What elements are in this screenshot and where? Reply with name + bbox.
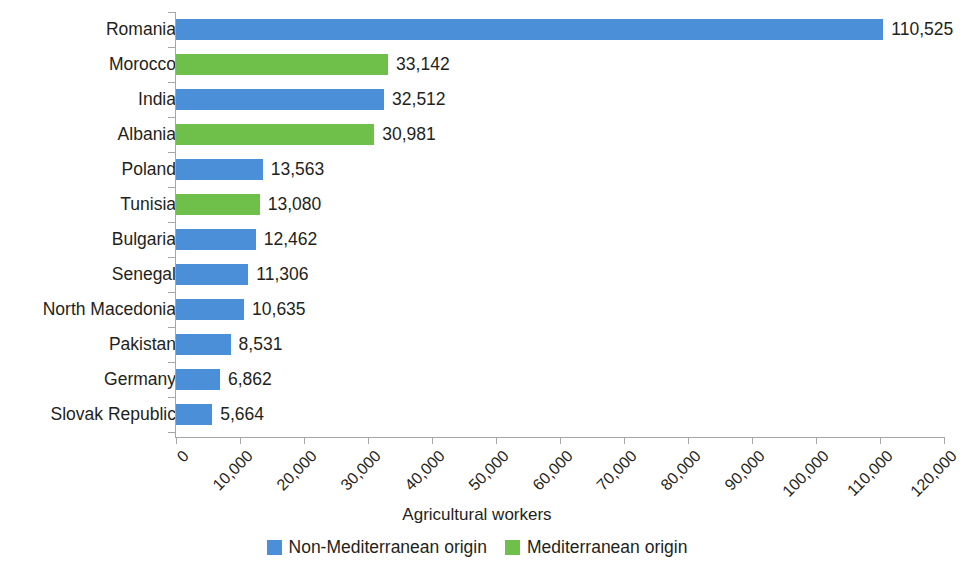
category-label-india: India	[4, 82, 176, 117]
x-axis-tick	[432, 437, 433, 444]
legend-swatch-icon	[505, 540, 520, 555]
category-label-poland: Poland	[4, 152, 176, 187]
category-row: Poland	[0, 152, 176, 187]
category-label-morocco: Morocco	[4, 47, 176, 82]
bar-row: 11,306	[176, 257, 944, 292]
x-axis-tick	[688, 437, 689, 444]
y-axis-tick	[168, 152, 175, 153]
bar-value-label: 33,142	[396, 49, 450, 80]
bar-row: 10,635	[176, 292, 944, 327]
category-row: Tunisia	[0, 187, 176, 222]
category-row: India	[0, 82, 176, 117]
category-row: Slovak Republic	[0, 397, 176, 432]
y-axis-tick	[168, 362, 175, 363]
legend-item-mediterranean[interactable]: Mediterranean origin	[505, 537, 688, 558]
bar-value-label: 30,981	[382, 119, 436, 150]
x-axis-tick	[240, 437, 241, 444]
bar-value-label: 110,525	[891, 14, 953, 45]
category-axis: RomaniaMoroccoIndiaAlbaniaPolandTunisiaB…	[0, 12, 176, 437]
category-label-germany: Germany	[4, 362, 176, 397]
bar-bulgaria[interactable]	[176, 229, 256, 250]
y-axis-tick	[168, 397, 175, 398]
bar-value-label: 5,664	[220, 399, 264, 430]
category-label-pakistan: Pakistan	[4, 327, 176, 362]
legend-swatch-icon	[267, 540, 282, 555]
category-row: Bulgaria	[0, 222, 176, 257]
bar-north-macedonia[interactable]	[176, 299, 244, 320]
bar-romania[interactable]	[176, 19, 883, 40]
category-row: Pakistan	[0, 327, 176, 362]
bar-row: 32,512	[176, 82, 944, 117]
bar-value-label: 6,862	[228, 364, 272, 395]
bar-row: 13,563	[176, 152, 944, 187]
x-axis-tick	[368, 437, 369, 444]
category-label-senegal: Senegal	[4, 257, 176, 292]
chart-legend: Non-Mediterranean originMediterranean or…	[0, 537, 954, 558]
x-axis-title: Agricultural workers	[0, 505, 954, 525]
x-axis-tick	[816, 437, 817, 444]
category-row: Romania	[0, 12, 176, 47]
legend-label: Mediterranean origin	[527, 537, 688, 558]
bar-senegal[interactable]	[176, 264, 248, 285]
y-axis-tick	[168, 327, 175, 328]
bar-row: 8,531	[176, 327, 944, 362]
bar-germany[interactable]	[176, 369, 220, 390]
category-label-bulgaria: Bulgaria	[4, 222, 176, 257]
plot-area: 110,52533,14232,51230,98113,56313,08012,…	[176, 12, 944, 437]
category-label-romania: Romania	[4, 12, 176, 47]
y-axis-tick	[168, 82, 175, 83]
y-axis-tick	[168, 432, 175, 433]
bar-value-label: 13,563	[271, 154, 325, 185]
x-axis-tick	[944, 437, 945, 444]
bar-albania[interactable]	[176, 124, 374, 145]
category-label-tunisia: Tunisia	[4, 187, 176, 222]
x-axis-tick	[176, 437, 177, 444]
y-axis-tick	[168, 47, 175, 48]
bar-tunisia[interactable]	[176, 194, 260, 215]
category-row: Germany	[0, 362, 176, 397]
bar-value-label: 8,531	[239, 329, 283, 360]
y-axis-tick	[168, 292, 175, 293]
bar-india[interactable]	[176, 89, 384, 110]
bar-poland[interactable]	[176, 159, 263, 180]
x-axis-tick	[560, 437, 561, 444]
category-label-albania: Albania	[4, 117, 176, 152]
bar-row: 30,981	[176, 117, 944, 152]
bar-value-label: 13,080	[268, 189, 322, 220]
bar-slovak-republic[interactable]	[176, 404, 212, 425]
bar-row: 6,862	[176, 362, 944, 397]
bar-row: 13,080	[176, 187, 944, 222]
category-label-north-macedonia: North Macedonia	[4, 292, 176, 327]
bar-row: 110,525	[176, 12, 944, 47]
category-row: North Macedonia	[0, 292, 176, 327]
bar-value-label: 12,462	[264, 224, 318, 255]
y-axis-tick	[168, 222, 175, 223]
bar-value-label: 11,306	[256, 259, 308, 290]
category-row: Senegal	[0, 257, 176, 292]
legend-label: Non-Mediterranean origin	[289, 537, 487, 558]
bar-row: 12,462	[176, 222, 944, 257]
y-axis-tick	[168, 117, 175, 118]
x-axis-tick	[624, 437, 625, 444]
y-axis-tick	[168, 12, 175, 13]
bar-row: 5,664	[176, 397, 944, 432]
y-axis-tick	[168, 257, 175, 258]
y-axis-tick	[168, 187, 175, 188]
category-label-slovak-republic: Slovak Republic	[4, 397, 176, 432]
bar-value-label: 32,512	[392, 84, 446, 115]
legend-item-non-mediterranean[interactable]: Non-Mediterranean origin	[267, 537, 487, 558]
bar-row: 33,142	[176, 47, 944, 82]
category-row: Albania	[0, 117, 176, 152]
category-row: Morocco	[0, 47, 176, 82]
bar-morocco[interactable]	[176, 54, 388, 75]
bar-value-label: 10,635	[252, 294, 306, 325]
x-axis-tick	[496, 437, 497, 444]
x-axis-tick	[304, 437, 305, 444]
x-axis-tick	[752, 437, 753, 444]
bar-pakistan[interactable]	[176, 334, 231, 355]
x-axis-tick	[880, 437, 881, 444]
